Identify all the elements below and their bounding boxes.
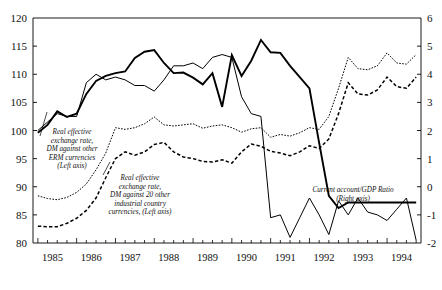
y-axis-left-tick-label: 80 [16,237,28,249]
y-axis-left-labels: 80859095100105110115120 [11,12,28,249]
y-axis-left-tick-label: 105 [11,96,28,108]
legend-industrial-line: industrial country [114,200,167,208]
x-axis-labels: 1985198619871988198919901991199219931994 [42,252,413,263]
chart-plot-area: 80859095100105110115120 -2-10123456 1985… [0,0,442,290]
chart-container: 80859095100105110115120 -2-10123456 1985… [0,0,442,290]
series-line-0 [38,40,416,208]
legend-erm-line: DM against other [45,145,97,153]
y-axis-left-tick-label: 95 [16,153,28,165]
legend-erm-line: exchange rate, [51,137,94,145]
x-axis-tick-label: 1993 [352,252,373,263]
y-axis-right-labels: -2-10123456 [427,12,436,249]
y-axis-right-tick-label: -1 [427,209,436,221]
legend-industrial: Real effectiveexchange rate,DM against 2… [108,174,172,216]
legend-erm: Real effectiveexchange rate,DM against o… [45,128,97,170]
y-axis-right-tick-label: 5 [427,40,433,52]
x-axis-tick-label: 1994 [391,252,413,263]
y-axis-right-tick-label: 0 [427,181,433,193]
x-axis-tick-label: 1991 [275,252,296,263]
x-axis-tick-label: 1988 [158,252,179,263]
x-axis-tick-label: 1985 [42,252,63,263]
y-axis-left-tick-label: 120 [11,12,28,24]
y-axis-right-tick-label: 4 [427,68,433,80]
y-axis-left-tick-label: 90 [16,181,28,193]
legend-current-account-line: Current account/GDP Ratio [312,186,393,194]
y-axis-left-tick-label: 115 [11,40,28,52]
x-axis-tick-label: 1990 [236,252,257,263]
y-axis-right-tick-label: 1 [427,153,433,165]
legend-erm-line: ERM currencies [48,154,96,162]
y-axis-left-tick-label: 110 [11,68,28,80]
y-axis-left-tick-label: 85 [16,209,28,221]
legend-erm-line: Real effective [52,128,93,136]
legend-industrial-line: Real effective [120,174,161,182]
y-axis-right-tick-label: 6 [427,12,433,24]
x-axis-tick-label: 1987 [120,252,141,263]
x-axis-tick-label: 1989 [197,252,218,263]
y-axis-right-ticks [417,46,421,215]
y-axis-right-tick-label: -2 [427,237,436,249]
legend-industrial-line: exchange rate, [119,183,162,191]
legend-industrial-line: currencies, (Left axis) [108,208,172,216]
data-series-group [38,40,416,240]
y-axis-left-tick-label: 100 [11,125,28,137]
x-axis-tick-label: 1992 [314,252,335,263]
legend-industrial-line: DM against 20 other [109,191,170,199]
y-axis-right-tick-label: 3 [427,96,433,108]
x-axis-tick-label: 1986 [81,252,102,263]
x-axis-ticks [38,238,416,243]
y-axis-left-ticks [33,46,37,215]
legend-current-account: Current account/GDP Ratio(Right axis) [312,186,393,203]
legend-current-account-line: (Right axis) [336,195,370,203]
legend-erm-line: (Left axis) [57,162,87,170]
y-axis-right-tick-label: 2 [427,125,433,137]
